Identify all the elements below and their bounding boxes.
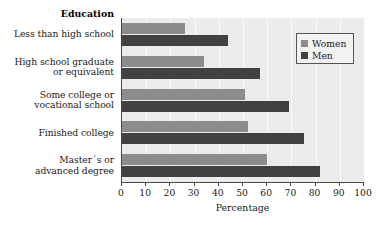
category-label-4: Master´s oradvanced degree	[0, 155, 114, 176]
legend: WomenMen	[296, 33, 354, 64]
category-label-line: vocational school	[0, 100, 114, 110]
x-tick	[145, 182, 146, 186]
gridline	[291, 18, 292, 182]
bar-women-0	[122, 23, 185, 34]
legend-swatch-icon	[301, 52, 308, 59]
category-label-line: advanced degree	[0, 166, 114, 176]
bar-men-0	[122, 35, 228, 46]
bar-men-2	[122, 101, 289, 112]
x-tick	[121, 182, 122, 186]
category-label-2: Some college orvocational school	[0, 90, 114, 111]
x-tick	[290, 182, 291, 186]
bar-women-2	[122, 89, 245, 100]
legend-swatch-icon	[301, 40, 308, 47]
x-tick	[339, 182, 340, 186]
category-label-line: Less than high school	[0, 29, 114, 39]
bar-chart-figure: Education Less than high schoolHigh scho…	[0, 0, 389, 234]
x-tick	[266, 182, 267, 186]
x-tick	[363, 182, 364, 186]
category-label-1: High school graduateor equivalent	[0, 57, 114, 78]
bar-men-4	[122, 166, 320, 177]
x-tick	[242, 182, 243, 186]
x-tick	[315, 182, 316, 186]
bar-women-4	[122, 154, 267, 165]
x-tick	[194, 182, 195, 186]
x-tick	[169, 182, 170, 186]
legend-label: Men	[312, 50, 333, 61]
gridline	[364, 18, 365, 182]
category-label-3: Finished college	[0, 128, 114, 138]
bar-men-1	[122, 68, 260, 79]
x-tick-label: 100	[348, 187, 378, 198]
legend-item: Women	[301, 37, 353, 49]
bar-men-3	[122, 133, 304, 144]
x-axis-label: Percentage	[121, 202, 364, 213]
category-label-line: or equivalent	[0, 67, 114, 77]
category-axis-labels: Less than high schoolHigh school graduat…	[0, 18, 118, 182]
legend-item: Men	[301, 49, 353, 61]
category-label-0: Less than high school	[0, 29, 114, 39]
category-label-line: Finished college	[0, 128, 114, 138]
bar-women-1	[122, 56, 204, 67]
legend-label: Women	[312, 38, 346, 49]
x-tick	[218, 182, 219, 186]
bar-women-3	[122, 121, 248, 132]
